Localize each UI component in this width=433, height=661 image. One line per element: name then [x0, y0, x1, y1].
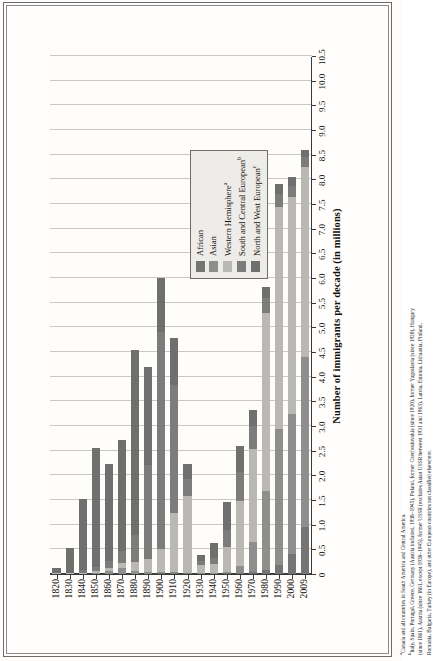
value-tick-8.5: 8.5 — [317, 143, 327, 167]
category-label-2000: 2000 — [286, 579, 296, 613]
legend-item-asian[interactable]: Asian — [209, 156, 218, 271]
category-label-1840: 1840 — [76, 579, 86, 613]
legend-swatch-western-hemisphere — [222, 261, 231, 272]
value-tick-1.5: 1.5 — [317, 489, 327, 513]
legend-swatch-african — [196, 261, 205, 272]
legend-item-south-and-central-european[interactable]: South and Central Europeanb — [236, 156, 246, 271]
value-tick-mark — [312, 278, 316, 279]
category-tick — [148, 574, 149, 579]
footnotes-block: aCanada and all countries in South Ameri… — [398, 305, 433, 655]
category-label-1890: 1890 — [142, 579, 152, 613]
value-tick-4.0: 4.0 — [317, 365, 327, 389]
value-tick-mark — [312, 524, 316, 525]
value-tick-mark — [312, 549, 316, 550]
value-tick-10.5: 10.5 — [317, 45, 327, 69]
value-tick-mark — [312, 327, 316, 328]
value-tick-5.0: 5.0 — [317, 316, 327, 340]
category-label-1850: 1850 — [89, 579, 99, 613]
category-tick — [82, 574, 83, 579]
legend-item-north-and-west-european[interactable]: North and West Europeanc — [250, 156, 260, 271]
value-tick-mark — [312, 130, 316, 131]
plot-area — [50, 57, 312, 575]
category-label-1940: 1940 — [207, 579, 217, 613]
value-axis-title: Number of immigrants per decade (in mill… — [331, 206, 342, 426]
category-label-1920: 1920 — [181, 579, 191, 613]
value-tick-3.0: 3.0 — [317, 415, 327, 439]
value-tick-mark — [312, 253, 316, 254]
value-tick-mark — [312, 352, 316, 353]
category-label-1930: 1930 — [194, 579, 204, 613]
value-tick-0.5: 0.5 — [317, 538, 327, 562]
chart-legend: AfricanAsianWestern HemisphereaSouth and… — [190, 149, 268, 278]
legend-footnote-marker: a — [222, 182, 228, 185]
category-tick — [213, 574, 214, 579]
footnote-a-marker: a — [398, 653, 403, 655]
category-tick — [279, 574, 280, 579]
value-tick-0: 0 — [317, 563, 327, 587]
category-label-1870: 1870 — [116, 579, 126, 613]
category-tick — [69, 574, 70, 579]
category-tick — [305, 574, 306, 579]
category-label-1820: 1820 — [50, 579, 60, 613]
value-tick-2.5: 2.5 — [317, 439, 327, 463]
footnote-b-marker: b — [407, 653, 412, 655]
category-tick — [108, 574, 109, 579]
legend-swatch-north-and-west-european — [251, 261, 260, 272]
category-label-1970: 1970 — [247, 579, 257, 613]
value-tick-8.0: 8.0 — [317, 168, 327, 192]
value-tick-mark — [312, 574, 316, 575]
category-tick — [226, 574, 227, 579]
category-tick — [122, 574, 123, 579]
legend-label-south-and-central-european: South and Central Europeanb — [236, 156, 246, 255]
value-tick-mark — [312, 56, 316, 57]
value-tick-3.5: 3.5 — [317, 390, 327, 414]
footnote-a-text: Canada and all countries in South Americ… — [400, 514, 406, 654]
value-tick-mark — [312, 105, 316, 106]
value-tick-6.5: 6.5 — [317, 242, 327, 266]
category-tick — [135, 574, 136, 579]
category-tick — [161, 574, 162, 579]
category-label-1990: 1990 — [273, 579, 283, 613]
category-tick-layer — [50, 57, 312, 574]
legend-label-western-hemisphere: Western Hemispherea — [222, 182, 232, 256]
value-tick-mark — [312, 376, 316, 377]
category-tick — [200, 574, 201, 579]
footnote-b-text: Italy, Spain, Portugal, Greece, Germany … — [409, 308, 432, 655]
legend-item-western-hemisphere[interactable]: Western Hemispherea — [222, 156, 232, 271]
value-tick-10.0: 10.0 — [317, 69, 327, 93]
category-label-1980: 1980 — [260, 579, 270, 613]
legend-label-african: African — [196, 230, 205, 256]
value-tick-mark — [312, 475, 316, 476]
category-label-1900: 1900 — [155, 579, 165, 613]
value-tick-5.5: 5.5 — [317, 291, 327, 315]
value-tick-mark — [312, 500, 316, 501]
category-label-1880: 1880 — [129, 579, 139, 613]
value-tick-4.5: 4.5 — [317, 341, 327, 365]
category-tick — [187, 574, 188, 579]
value-tick-mark — [312, 179, 316, 180]
category-label-1950: 1950 — [220, 579, 230, 613]
category-label-1830: 1830 — [63, 579, 73, 613]
value-tick-7.0: 7.0 — [317, 217, 327, 241]
legend-footnote-marker: c — [250, 165, 256, 168]
gridline — [50, 55, 312, 56]
value-tick-mark — [312, 204, 316, 205]
category-tick — [174, 574, 175, 579]
legend-swatch-asian — [209, 261, 218, 272]
value-tick-9.0: 9.0 — [317, 119, 327, 143]
value-tick-mark — [312, 228, 316, 229]
footnote-b: bItaly, Spain, Portugal, Greece, Germany… — [407, 305, 433, 655]
value-tick-mark — [312, 401, 316, 402]
legend-item-african[interactable]: African — [196, 156, 205, 271]
value-tick-mark — [312, 154, 316, 155]
legend-label-asian: Asian — [209, 236, 218, 256]
category-tick — [239, 574, 240, 579]
category-tick — [253, 574, 254, 579]
footnote-a: aCanada and all countries in South Ameri… — [398, 305, 407, 655]
legend-swatch-south-and-central-european — [236, 261, 245, 272]
category-label-1860: 1860 — [102, 579, 112, 613]
value-tick-1.0: 1.0 — [317, 513, 327, 537]
value-tick-2.0: 2.0 — [317, 464, 327, 488]
category-tick — [266, 574, 267, 579]
